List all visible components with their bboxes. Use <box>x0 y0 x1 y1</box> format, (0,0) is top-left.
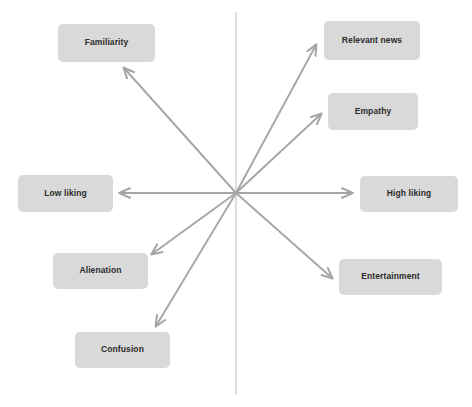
arrow-to-confusion <box>156 193 236 326</box>
node-box-low-liking[interactable]: Low liking <box>18 175 113 212</box>
node-box-entertainment[interactable]: Entertainment <box>339 259 442 295</box>
node-label-empathy: Empathy <box>355 107 392 116</box>
node-box-empathy[interactable]: Empathy <box>328 93 418 130</box>
node-box-high-liking[interactable]: High liking <box>360 176 458 212</box>
node-box-familiarity[interactable]: Familiarity <box>58 24 155 62</box>
node-label-entertainment: Entertainment <box>361 272 419 281</box>
arrow-to-alienation <box>152 193 236 254</box>
arrow-to-entertainment <box>236 193 332 278</box>
node-box-confusion[interactable]: Confusion <box>75 332 170 368</box>
node-label-high-liking: High liking <box>387 189 432 198</box>
node-label-low-liking: Low liking <box>44 189 87 198</box>
node-label-confusion: Confusion <box>101 345 144 354</box>
node-label-relevant-news: Relevant news <box>342 36 402 45</box>
diagram-canvas: Familiarity Relevant news Empathy Low li… <box>0 0 472 407</box>
arrow-to-empathy <box>236 114 321 193</box>
node-label-alienation: Alienation <box>79 266 121 275</box>
node-box-relevant-news[interactable]: Relevant news <box>324 21 420 60</box>
arrow-to-relevant-news <box>236 45 316 193</box>
node-label-familiarity: Familiarity <box>85 38 129 47</box>
node-box-alienation[interactable]: Alienation <box>53 253 148 289</box>
arrow-to-familiarity <box>124 68 236 193</box>
